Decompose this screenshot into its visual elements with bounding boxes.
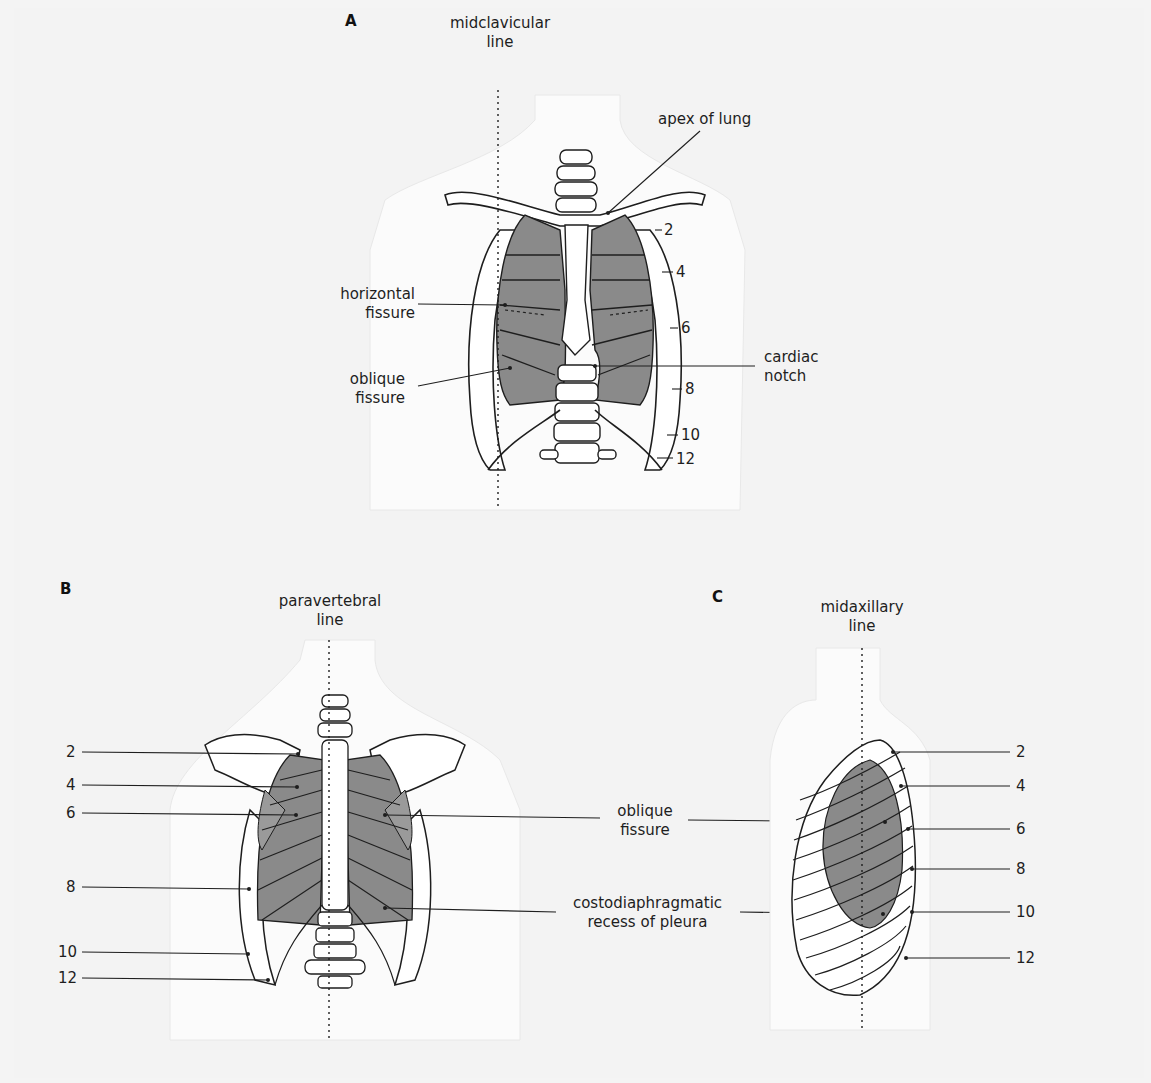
costodiaphragmatic-recess-label-1: costodiaphragmatic — [555, 894, 740, 913]
panel-b-illustration — [82, 640, 885, 1040]
panel-a-rib-6: 6 — [681, 319, 691, 337]
panel-c-letter: C — [712, 588, 723, 606]
horizontal-fissure-label-2: fissure — [320, 304, 415, 323]
oblique-fissure-label-b: oblique fissure — [600, 802, 690, 840]
paravertebral-line-label: paravertebral line — [265, 592, 395, 630]
horizontal-fissure-label-1: horizontal — [320, 285, 415, 304]
oblique-fissure-label-a-1: oblique — [320, 370, 405, 389]
panel-c-illustration — [770, 648, 1010, 1030]
panel-a-rib-12: 12 — [676, 450, 695, 468]
cardiac-notch-label: cardiac notch — [764, 348, 818, 386]
panel-a-rib-2: 2 — [664, 221, 674, 239]
midaxillary-line-label: midaxillary line — [812, 598, 912, 636]
panel-c-rib-10: 10 — [1016, 903, 1035, 921]
oblique-fissure-label-b-1: oblique — [600, 802, 690, 821]
horizontal-fissure-label: horizontal fissure — [320, 285, 415, 323]
costodiaphragmatic-recess-label: costodiaphragmatic recess of pleura — [555, 894, 740, 932]
panel-c-rib-12: 12 — [1016, 949, 1035, 967]
panel-c-rib-4: 4 — [1016, 777, 1026, 795]
panel-b-rib-8: 8 — [66, 878, 76, 896]
oblique-fissure-label-a-2: fissure — [320, 389, 405, 408]
panel-b-rib-12: 12 — [58, 969, 77, 987]
midclavicular-line-label-1: midclavicular — [440, 14, 560, 33]
cardiac-notch-label-1: cardiac — [764, 348, 818, 367]
panel-b-rib-10: 10 — [58, 943, 77, 961]
panel-a-rib-8: 8 — [685, 380, 695, 398]
panel-c-rib-6: 6 — [1016, 820, 1026, 838]
oblique-fissure-label-a: oblique fissure — [320, 370, 405, 408]
anatomy-figure: A midclavicular line apex of lung horizo… — [0, 0, 1151, 1083]
panel-a-illustration — [370, 90, 755, 510]
midclavicular-line-label-2: line — [440, 33, 560, 52]
paravertebral-line-label-2: line — [265, 611, 395, 630]
panel-a-letter: A — [345, 12, 357, 30]
midaxillary-line-label-1: midaxillary — [812, 598, 912, 617]
panel-c-rib-2: 2 — [1016, 743, 1026, 761]
cardiac-notch-label-2: notch — [764, 367, 818, 386]
panel-a-rib-4: 4 — [676, 263, 686, 281]
apex-of-lung-label: apex of lung — [658, 110, 751, 129]
panel-b-rib-2: 2 — [66, 743, 76, 761]
panel-b-rib-4: 4 — [66, 776, 76, 794]
panel-c-rib-8: 8 — [1016, 860, 1026, 878]
midaxillary-line-label-2: line — [812, 617, 912, 636]
panel-b-letter: B — [60, 580, 71, 598]
paravertebral-line-label-1: paravertebral — [265, 592, 395, 611]
midclavicular-line-label: midclavicular line — [440, 14, 560, 52]
panel-b-rib-6: 6 — [66, 804, 76, 822]
panel-a-rib-10: 10 — [681, 426, 700, 444]
oblique-fissure-label-b-2: fissure — [600, 821, 690, 840]
costodiaphragmatic-recess-label-2: recess of pleura — [555, 913, 740, 932]
